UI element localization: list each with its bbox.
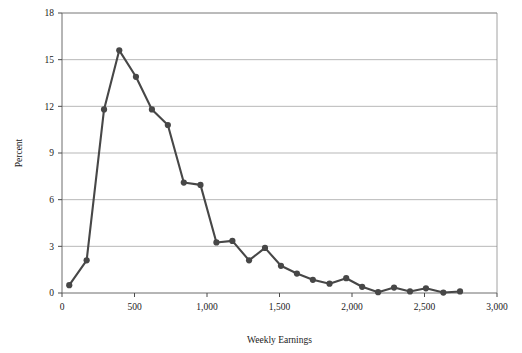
line-chart-plot: 036912151805001,0001,5002,0002,5003,000W… [0, 0, 522, 353]
data-series-line [69, 50, 460, 292]
data-point-marker [246, 257, 252, 263]
data-point-marker [133, 74, 139, 80]
data-point-marker [457, 288, 463, 294]
chart-container: 036912151805001,0001,5002,0002,5003,000W… [0, 0, 522, 353]
data-point-marker [229, 238, 235, 244]
data-point-marker [165, 122, 171, 128]
x-tick-label-2500: 2,500 [414, 302, 436, 312]
y-tick-label-18: 18 [45, 8, 55, 18]
y-tick-label-15: 15 [45, 55, 55, 65]
data-point-marker [84, 257, 90, 263]
data-point-marker [391, 284, 397, 290]
data-point-marker [278, 263, 284, 269]
x-tick-label-0: 0 [60, 302, 65, 312]
data-point-marker [326, 281, 332, 287]
data-point-marker [294, 270, 300, 276]
x-axis-title: Weekly Earnings [247, 335, 312, 345]
x-tick-label-500: 500 [127, 302, 142, 312]
data-point-marker [66, 282, 72, 288]
data-point-marker [375, 289, 381, 295]
x-tick-label-2000: 2,000 [341, 302, 363, 312]
data-point-marker [197, 182, 203, 188]
x-tick-label-1500: 1,500 [269, 302, 291, 312]
data-point-marker [423, 285, 429, 291]
y-tick-label-9: 9 [49, 148, 54, 158]
y-tick-label-12: 12 [45, 102, 55, 112]
data-point-marker [343, 275, 349, 281]
data-point-marker [116, 47, 122, 53]
data-point-marker [181, 179, 187, 185]
y-tick-label-6: 6 [49, 195, 54, 205]
data-point-marker [359, 284, 365, 290]
y-tick-label-3: 3 [49, 242, 54, 252]
data-point-marker [101, 106, 107, 112]
data-point-marker [262, 245, 268, 251]
data-point-marker [149, 106, 155, 112]
data-point-marker [213, 239, 219, 245]
data-point-marker [440, 289, 446, 295]
y-tick-label-0: 0 [49, 288, 54, 298]
y-axis-title: Percent [14, 138, 24, 167]
x-tick-label-3000: 3,000 [486, 302, 508, 312]
x-tick-label-1000: 1,000 [196, 302, 218, 312]
data-point-marker [407, 288, 413, 294]
data-point-marker [310, 277, 316, 283]
